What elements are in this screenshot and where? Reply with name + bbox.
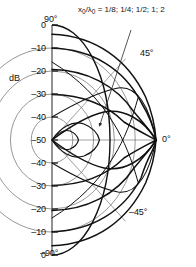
radial-tick-label-lower-30: –30 <box>20 181 46 191</box>
radial-tick-label-lower-10: –10 <box>20 227 46 237</box>
angle-label-0: 0° <box>162 134 170 144</box>
title-values: = 1/8; 1/4; 1/2; 1; 2 <box>95 5 164 14</box>
radial-tick-label-upper-0: 0 <box>20 20 46 30</box>
radial-tick-label-upper-20: –20 <box>20 66 46 76</box>
radial-axis-title: dB <box>9 73 20 83</box>
radial-tick-label-lower-0: 0 <box>20 250 46 260</box>
radial-tick-label-upper-10: –10 <box>20 43 46 53</box>
radial-tick-label-upper-30: –30 <box>20 89 46 99</box>
angle-label-45: 45° <box>140 48 153 58</box>
polar-directivity-figure: x0/λ0 = 1/8; 1/4; 1/2; 1; 2 dB 90° 45° 0… <box>0 0 196 267</box>
radial-tick-label-upper-40: –40 <box>20 112 46 122</box>
parameter-legend-title: x0/λ0 = 1/8; 1/4; 1/2; 1; 2 <box>78 5 165 17</box>
radial-tick-label-center-50: –50 <box>20 135 46 145</box>
angle-label-minus45: –45° <box>129 207 147 217</box>
radial-tick-label-lower-40: –40 <box>20 158 46 168</box>
radial-tick-marks <box>52 25 58 255</box>
radial-tick-label-lower-20: –20 <box>20 204 46 214</box>
